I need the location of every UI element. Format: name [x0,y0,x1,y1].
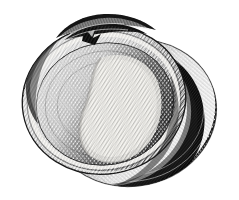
engraving-figure: Monochrome cross-hatched engraving of a … [0,0,239,200]
bivalve-shell-illustration [0,0,239,200]
